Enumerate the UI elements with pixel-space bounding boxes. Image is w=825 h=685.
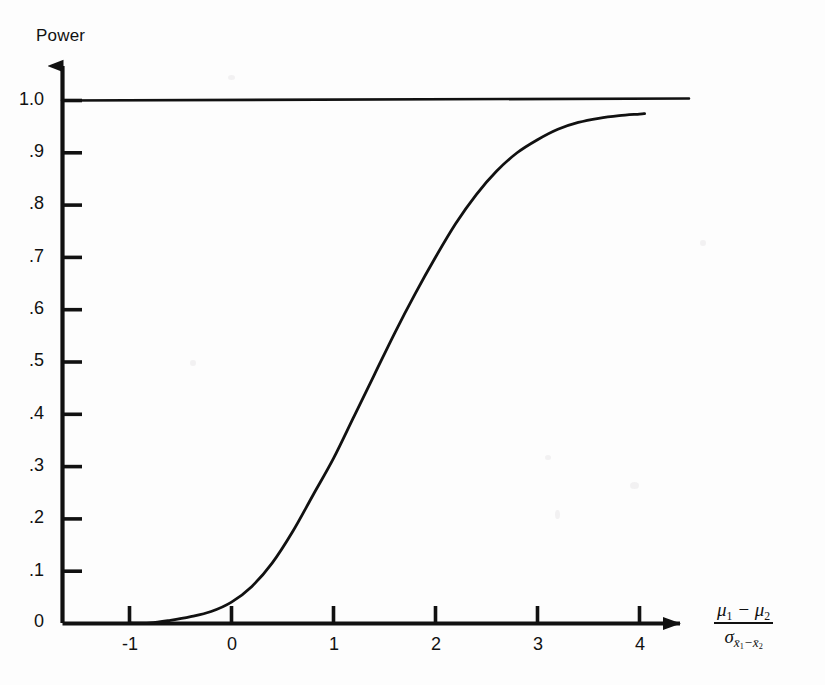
y-tick-label-0: 0 [0,611,44,632]
x-axis-title-denominator: σx̄1−x̄2 [714,624,773,646]
x-axis-title-numerator: μ1 − μ2 [714,600,773,622]
power-curve-line [130,114,645,624]
x-tick-label-0: 0 [212,634,252,655]
y-tick-label-0.2: .2 [0,507,44,528]
power-curve-plot [0,0,825,685]
x-tick-label-1: 1 [314,634,354,655]
x-axis-title: μ1 − μ2 σx̄1−x̄2 [714,600,773,646]
y-tick-label-0.3: .3 [0,455,44,476]
y-axis-title: Power [36,26,85,46]
y-axis-ticks [63,101,83,572]
y-tick-label-0.8: .8 [0,193,44,214]
x-tick-label-4: 4 [620,634,660,655]
x-axis-ticks [130,606,640,624]
y-tick-label-0.7: .7 [0,246,44,267]
y-tick-label-0.4: .4 [0,403,44,424]
power-asymptote-line [62,99,689,101]
x-tick-label--1: -1 [110,634,150,655]
figure-canvas: Power 1.0 .9 .8 .7 .6 .5 .4 .3 .2 .1 0 -… [0,0,825,685]
y-tick-label-0.9: .9 [0,141,44,162]
x-tick-label-3: 3 [518,634,558,655]
y-tick-label-0.6: .6 [0,298,44,319]
x-tick-label-2: 2 [416,634,456,655]
y-tick-label-1.0: 1.0 [0,89,44,110]
y-tick-label-0.1: .1 [0,560,44,581]
y-tick-label-0.5: .5 [0,350,44,371]
